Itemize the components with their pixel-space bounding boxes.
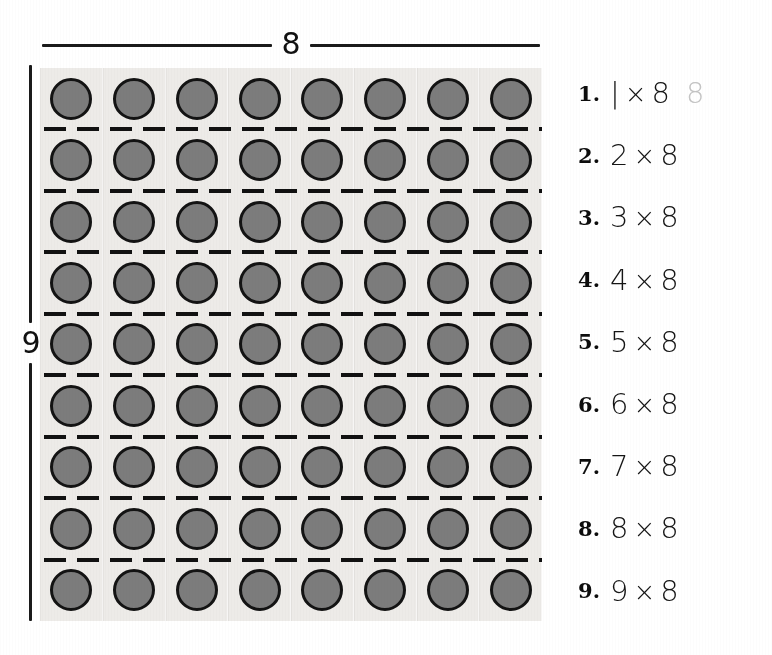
counter-cell[interactable] (40, 252, 103, 313)
counter-row (40, 560, 542, 621)
counter-cell[interactable] (479, 375, 542, 436)
fact-expression: |×8 (610, 76, 672, 110)
counter-cell[interactable] (103, 498, 166, 559)
counter-cell[interactable] (291, 437, 354, 498)
counter-cell[interactable] (417, 191, 480, 252)
counter-cell[interactable] (228, 437, 291, 498)
counter-circle-icon (364, 262, 406, 304)
counter-circle-icon (176, 201, 218, 243)
counter-circle-icon (239, 201, 281, 243)
counter-cell[interactable] (479, 314, 542, 375)
counter-cell[interactable] (417, 437, 480, 498)
counter-cell[interactable] (417, 498, 480, 559)
counter-cell[interactable] (228, 191, 291, 252)
counter-circle-icon (239, 569, 281, 611)
counter-cell[interactable] (479, 437, 542, 498)
fact-number: 8. (566, 516, 600, 541)
counter-cell[interactable] (291, 252, 354, 313)
counter-cell[interactable] (40, 560, 103, 621)
counter-cell[interactable] (354, 68, 417, 129)
fact-expression: 4×8 (610, 263, 681, 297)
fact-row[interactable]: 5.5×8 (566, 311, 772, 373)
counter-cell[interactable] (479, 191, 542, 252)
fact-row[interactable]: 8.8×8 (566, 497, 772, 559)
counter-cell[interactable] (103, 375, 166, 436)
counter-cell[interactable] (417, 375, 480, 436)
counter-cell[interactable] (417, 129, 480, 190)
counter-cell[interactable] (228, 314, 291, 375)
counter-cell[interactable] (354, 498, 417, 559)
counter-cell[interactable] (166, 191, 229, 252)
counter-cell[interactable] (40, 314, 103, 375)
counter-cell[interactable] (354, 252, 417, 313)
counter-cell[interactable] (40, 68, 103, 129)
counter-circle-icon (113, 323, 155, 365)
multiplication-sign-icon: × (630, 141, 660, 171)
counter-cell[interactable] (40, 498, 103, 559)
counter-circle-icon (364, 201, 406, 243)
counter-cell[interactable] (479, 560, 542, 621)
counter-cell[interactable] (166, 129, 229, 190)
counter-cell[interactable] (103, 129, 166, 190)
counter-cell[interactable] (40, 375, 103, 436)
counter-row (40, 252, 542, 313)
counter-cell[interactable] (103, 191, 166, 252)
fact-row[interactable]: 9.9×8 (566, 560, 772, 622)
counter-cell[interactable] (166, 437, 229, 498)
fact-row[interactable]: 7.7×8 (566, 435, 772, 497)
counter-cell[interactable] (291, 191, 354, 252)
counter-cell[interactable] (40, 437, 103, 498)
counter-cell[interactable] (417, 560, 480, 621)
counter-cell[interactable] (103, 560, 166, 621)
counter-cell[interactable] (228, 375, 291, 436)
counter-cell[interactable] (417, 252, 480, 313)
fact-multiplier: 8 (660, 574, 680, 608)
counter-cell[interactable] (417, 68, 480, 129)
counter-cell[interactable] (291, 314, 354, 375)
counter-cell[interactable] (103, 252, 166, 313)
counter-cell[interactable] (291, 68, 354, 129)
counter-cell[interactable] (103, 437, 166, 498)
counter-cell[interactable] (479, 498, 542, 559)
counter-circle-icon (50, 139, 92, 181)
counter-cell[interactable] (291, 129, 354, 190)
fact-number: 4. (566, 267, 600, 292)
counter-cell[interactable] (166, 252, 229, 313)
counter-cell[interactable] (354, 375, 417, 436)
counter-cell[interactable] (228, 560, 291, 621)
counter-cell[interactable] (291, 498, 354, 559)
counter-cell[interactable] (166, 314, 229, 375)
counter-cell[interactable] (479, 129, 542, 190)
counter-cell[interactable] (479, 68, 542, 129)
fact-row[interactable]: 2.2×8 (566, 124, 772, 186)
counter-cell[interactable] (166, 560, 229, 621)
counter-cell[interactable] (166, 498, 229, 559)
fact-row[interactable]: 6.6×8 (566, 373, 772, 435)
counter-cell[interactable] (228, 129, 291, 190)
counter-cell[interactable] (40, 191, 103, 252)
counter-cell[interactable] (228, 68, 291, 129)
counter-cell[interactable] (354, 560, 417, 621)
counter-cell[interactable] (354, 191, 417, 252)
counter-cell[interactable] (228, 252, 291, 313)
counter-cell[interactable] (103, 314, 166, 375)
fact-row[interactable]: 3.3×8 (566, 186, 772, 248)
counter-cell[interactable] (103, 68, 166, 129)
counter-cell[interactable] (291, 375, 354, 436)
counter-cell[interactable] (479, 252, 542, 313)
counter-cell[interactable] (40, 129, 103, 190)
counter-cell[interactable] (166, 375, 229, 436)
counter-circle-icon (176, 78, 218, 120)
counter-cell[interactable] (291, 560, 354, 621)
counter-circle-icon (490, 201, 532, 243)
counter-cell[interactable] (354, 437, 417, 498)
fact-answer[interactable]: 8 (686, 76, 704, 110)
counter-cell[interactable] (354, 314, 417, 375)
counter-cell[interactable] (228, 498, 291, 559)
counter-cell[interactable] (354, 129, 417, 190)
counter-cell[interactable] (166, 68, 229, 129)
fact-row[interactable]: 4.4×8 (566, 249, 772, 311)
fact-row[interactable]: 1.|×88 (566, 62, 772, 124)
counter-cell[interactable] (417, 314, 480, 375)
fact-number: 5. (566, 329, 600, 354)
